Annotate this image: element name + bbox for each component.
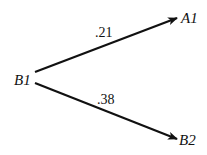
edge-b1-a1-label: .21 <box>95 25 113 40</box>
edge-b1-b2-label: .38 <box>97 92 115 107</box>
tree-diagram: B1 A1 B2 .21 .38 <box>0 0 207 155</box>
node-a1-label: A1 <box>180 10 198 26</box>
node-b2-label: B2 <box>179 132 196 148</box>
node-b1-label: B1 <box>14 72 31 88</box>
